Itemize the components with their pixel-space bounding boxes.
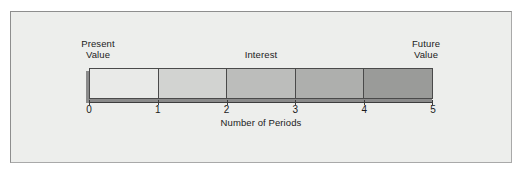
axis-line bbox=[89, 102, 433, 103]
time-value-of-money-diagram: Present Value Interest Future Value 0123… bbox=[11, 12, 513, 164]
bar-segment bbox=[364, 69, 432, 98]
interest-label: Interest bbox=[171, 49, 351, 60]
axis-title: Number of Periods bbox=[89, 117, 433, 128]
axis-tick-label: 2 bbox=[216, 104, 238, 115]
axis-tick-label: 0 bbox=[78, 104, 100, 115]
bar-segment bbox=[227, 69, 296, 98]
axis-tick-label: 5 bbox=[422, 104, 444, 115]
present-value-label: Present Value bbox=[69, 38, 127, 60]
axis-tick-label: 4 bbox=[353, 104, 375, 115]
future-value-label: Future Value bbox=[397, 38, 455, 60]
axis-tick-label: 3 bbox=[284, 104, 306, 115]
axis-tick-label: 1 bbox=[147, 104, 169, 115]
bar-segment bbox=[296, 69, 365, 98]
period-bar bbox=[89, 68, 433, 99]
bar-segment bbox=[90, 69, 159, 98]
bar-segment bbox=[159, 69, 228, 98]
figure-panel: Present Value Interest Future Value 0123… bbox=[10, 11, 512, 163]
